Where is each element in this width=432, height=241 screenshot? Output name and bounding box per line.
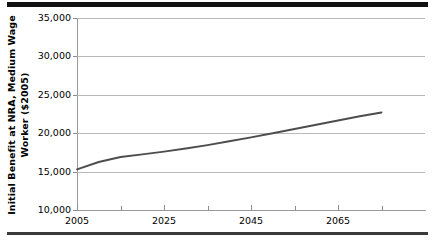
data-series-layer <box>0 0 432 241</box>
series-line-initial-benefit <box>77 112 382 169</box>
figure-container: Initial Benefit at NRA, Medium Wage Work… <box>0 0 432 241</box>
